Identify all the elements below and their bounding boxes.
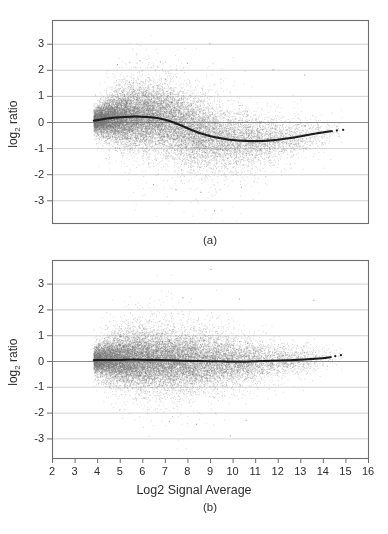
x-tick-label: 10 — [223, 466, 243, 477]
y-tick-label-a: 1 — [22, 90, 44, 101]
x-tick-label: 15 — [335, 466, 355, 477]
y-tick-label-b: 2 — [22, 304, 44, 315]
y-tick-label-b: 0 — [22, 356, 44, 367]
y-tick-label-b: 3 — [22, 278, 44, 289]
y-tick-label-a: -3 — [22, 195, 44, 206]
y-tick-label-b: 1 — [22, 330, 44, 341]
x-axis-label: Log2 Signal Average — [0, 483, 388, 497]
x-tick-label: 3 — [65, 466, 85, 477]
x-tick-label: 8 — [177, 466, 197, 477]
x-tick-label: 11 — [245, 466, 265, 477]
y-tick-label-b: -3 — [22, 433, 44, 444]
figure-two-ma-plots: log2 ratio log2 ratio (a) Log2 Signal Av… — [0, 0, 388, 534]
caption-plot-a: (a) — [190, 234, 230, 246]
x-tick-label: 13 — [290, 466, 310, 477]
x-tick-label: 6 — [132, 466, 152, 477]
x-tick-label: 4 — [87, 466, 107, 477]
caption-plot-b: (b) — [190, 501, 230, 513]
y-axis-label-plot-b: log2 ratio — [6, 332, 22, 392]
y-tick-label-a: -2 — [22, 169, 44, 180]
y-tick-label-b: -2 — [22, 407, 44, 418]
scatter-plot-canvas — [0, 0, 388, 534]
y-tick-label-a: 3 — [22, 38, 44, 49]
y-axis-label-plot-a: log2 ratio — [6, 94, 22, 154]
y-tick-label-a: -1 — [22, 143, 44, 154]
x-tick-label: 7 — [155, 466, 175, 477]
x-tick-label: 14 — [313, 466, 333, 477]
x-tick-label: 9 — [200, 466, 220, 477]
x-tick-label: 2 — [42, 466, 62, 477]
y-tick-label-b: -1 — [22, 381, 44, 392]
x-tick-label: 5 — [110, 466, 130, 477]
y-tick-label-a: 2 — [22, 64, 44, 75]
y-tick-label-a: 0 — [22, 117, 44, 128]
x-tick-label: 12 — [268, 466, 288, 477]
x-tick-label: 16 — [358, 466, 378, 477]
